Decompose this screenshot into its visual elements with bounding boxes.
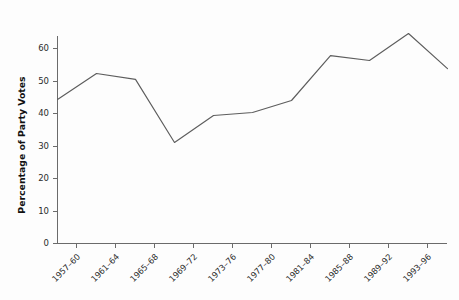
x-tick-label-1993-96: 1993–96 <box>401 252 433 284</box>
y-tick-label-60: 60 <box>38 43 49 53</box>
x-tick-label-1961-64: 1961–64 <box>89 252 121 284</box>
x-tick-label-1977-80: 1977–80 <box>245 252 277 284</box>
x-tick-label-1981-84: 1981–84 <box>284 252 316 284</box>
x-axis-ticks <box>77 244 428 249</box>
x-tick-label-1989-92: 1989–92 <box>362 252 394 284</box>
y-tick-label-20: 20 <box>38 173 49 183</box>
y-tick-label-40: 40 <box>38 108 49 118</box>
y-tick-label-50: 50 <box>38 76 49 86</box>
y-axis-ticks <box>53 49 58 244</box>
data-series-line <box>58 34 448 143</box>
x-axis-tick-labels: 1957–60 1961–64 1965–68 1969–72 1973–76 … <box>50 252 433 284</box>
y-axis-title: Percentage of Party Votes <box>16 76 27 214</box>
x-tick-label-1985-88: 1985–88 <box>323 252 355 284</box>
line-chart-figure: Percentage of Party Votes 0 10 20 30 40 … <box>0 0 459 300</box>
x-tick-label-1965-68: 1965–68 <box>128 252 160 284</box>
y-tick-label-30: 30 <box>38 141 49 151</box>
x-tick-label-1969-72: 1969–72 <box>167 252 199 284</box>
x-tick-label-1973-76: 1973–76 <box>206 252 238 284</box>
y-tick-label-10: 10 <box>38 206 49 216</box>
y-tick-label-0: 0 <box>44 238 49 248</box>
chart-plot-area: Percentage of Party Votes 0 10 20 30 40 … <box>0 0 459 300</box>
y-axis-tick-labels: 0 10 20 30 40 50 60 <box>38 43 49 248</box>
x-tick-label-1957-60: 1957–60 <box>50 252 82 284</box>
